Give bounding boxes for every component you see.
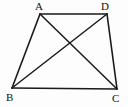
edge-cb: [12, 88, 117, 89]
vertex-label-d: D: [101, 1, 109, 12]
figure-canvas: [0, 0, 128, 107]
diagonal-ac: [40, 14, 117, 89]
geometry-figure: A D B C: [0, 0, 128, 107]
edge-dc: [107, 14, 117, 89]
vertex-label-a: A: [35, 1, 43, 12]
vertex-label-b: B: [6, 92, 13, 103]
vertex-label-c: C: [112, 93, 119, 104]
